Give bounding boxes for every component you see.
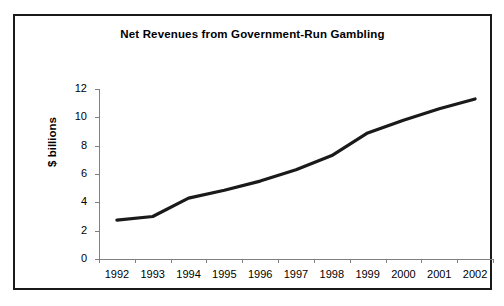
line-series-net-revenues — [117, 99, 475, 220]
chart-figure: Net Revenues from Government-Run Gamblin… — [13, 14, 492, 290]
data-series-layer — [15, 16, 494, 292]
